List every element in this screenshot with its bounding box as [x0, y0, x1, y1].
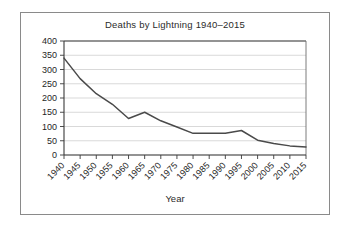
y-axis-tick-label: 50	[47, 136, 57, 146]
x-axis-tick-label: 2015	[287, 160, 308, 181]
y-axis-tick-label: 150	[42, 107, 57, 117]
x-axis-title: Year	[21, 193, 329, 204]
y-axis-tick-label: 300	[42, 65, 57, 75]
x-axis-tick-label: 1955	[94, 160, 115, 181]
gridlines	[64, 41, 306, 155]
x-axis-tick-label: 1970	[142, 160, 163, 181]
x-axis-tick-label: 2005	[255, 160, 276, 181]
x-axis-tick-label: 1960	[110, 160, 131, 181]
y-axis-tick-label: 350	[42, 50, 57, 60]
x-axis-tick-label: 1950	[77, 160, 98, 181]
x-axis-ticks	[64, 155, 306, 159]
chart-card: Deaths by Lightning 1940–2015 0501001502…	[20, 12, 330, 215]
y-axis-tick-label: 400	[42, 36, 57, 46]
x-axis-tick-label: 1995	[223, 160, 244, 181]
x-axis-tick-label: 1940	[45, 160, 66, 181]
x-axis-tick-label: 1965	[126, 160, 147, 181]
x-axis-tick-label: 1980	[174, 160, 195, 181]
x-axis-tick-labels: 1940194519501955196019651970197519801985…	[45, 160, 308, 181]
data-series-line	[64, 58, 306, 147]
x-axis-tick-label: 1975	[158, 160, 179, 181]
y-axis-tick-label: 250	[42, 79, 57, 89]
x-axis-tick-label: 1990	[207, 160, 228, 181]
y-axis-tick-label: 200	[42, 93, 57, 103]
x-axis-tick-label: 2010	[271, 160, 292, 181]
line-chart-plot: 050100150200250300350400 194019451950195…	[21, 13, 331, 216]
x-axis-tick-label: 2000	[239, 160, 260, 181]
y-axis-tick-label: 0	[52, 150, 57, 160]
y-axis-tick-labels: 050100150200250300350400	[42, 36, 57, 160]
x-axis-tick-label: 1985	[190, 160, 211, 181]
x-axis-tick-label: 1945	[61, 160, 82, 181]
y-axis-tick-label: 100	[42, 122, 57, 132]
